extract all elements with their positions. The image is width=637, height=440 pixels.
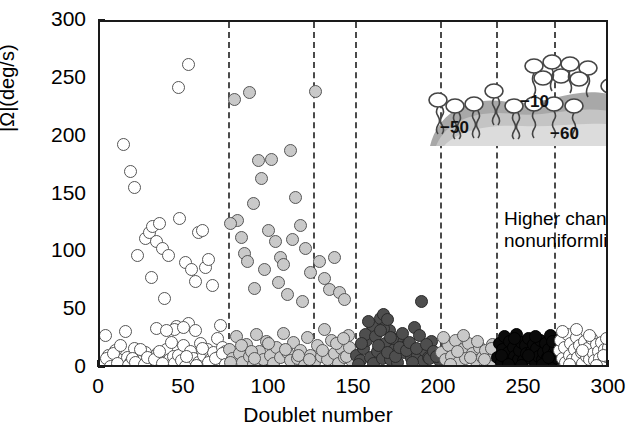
data-point [529, 330, 542, 343]
dashed-separator [313, 22, 315, 365]
data-point [124, 165, 137, 178]
data-point [284, 144, 297, 157]
inset-schematic: −50−10−10−70−60−10 [422, 46, 606, 152]
data-point [100, 329, 112, 342]
data-point [189, 324, 202, 337]
y-tick-label: 0 [74, 354, 86, 378]
inset-value-label: −50 [440, 118, 469, 138]
data-point [502, 358, 515, 365]
data-point [172, 81, 185, 94]
x-tick-label: 50 [171, 374, 194, 398]
data-point [214, 319, 227, 332]
data-point [304, 266, 317, 279]
data-point [303, 353, 316, 365]
data-point [328, 251, 341, 264]
y-tick-label: 250 [51, 65, 86, 89]
data-point [289, 191, 302, 204]
data-point [202, 253, 215, 266]
data-point [597, 349, 606, 362]
data-point [177, 321, 190, 334]
data-point [228, 93, 241, 106]
data-point [162, 249, 175, 262]
data-point [464, 351, 477, 364]
data-point [252, 154, 265, 167]
data-point [279, 343, 292, 356]
y-tick-label: 150 [51, 181, 86, 205]
data-point [241, 255, 254, 268]
x-tick-label: 300 [590, 374, 625, 398]
plot-area: Higher change nonuniformlity [98, 20, 608, 367]
data-point [196, 224, 209, 237]
data-point [471, 335, 484, 348]
x-tick-label: 200 [420, 374, 455, 398]
data-point [165, 336, 178, 349]
data-point [478, 353, 491, 365]
data-point [444, 358, 457, 365]
annotation-text: Higher change nonuniformlity [504, 208, 606, 252]
annotation-line-2: nonuniformlity [504, 230, 606, 252]
data-point [522, 349, 535, 362]
data-point [269, 235, 282, 248]
data-point [145, 271, 158, 284]
data-point [286, 233, 299, 246]
inset-value-label: −60 [550, 124, 579, 144]
y-tick-label: 100 [51, 238, 86, 262]
x-tick-label: 250 [505, 374, 540, 398]
data-point [563, 358, 576, 365]
dashed-separator [228, 22, 230, 365]
dashed-separator [355, 22, 357, 365]
data-point [235, 231, 248, 244]
plot-clip: Higher change nonuniformlity [100, 22, 606, 365]
data-point [206, 279, 219, 292]
data-point [570, 323, 583, 336]
data-point [265, 153, 278, 166]
data-point [153, 217, 166, 230]
data-point [296, 295, 309, 308]
x-axis-title: Doublet number [243, 403, 392, 427]
data-point [309, 85, 322, 98]
data-point [299, 242, 312, 255]
x-tick-label: 0 [92, 374, 104, 398]
data-point [281, 288, 294, 301]
y-tick-label: 50 [63, 296, 86, 320]
data-point [337, 332, 350, 345]
data-point [255, 172, 268, 185]
figure-container: |Ω|(deg/s) 05010015020025030005010015020… [0, 0, 637, 440]
data-point [352, 358, 365, 365]
data-point [583, 329, 596, 342]
x-tick-label: 150 [335, 374, 370, 398]
data-point [451, 345, 464, 358]
data-point [247, 197, 260, 210]
data-point [262, 337, 275, 350]
data-point [248, 282, 261, 295]
inset-value-label: −10 [520, 92, 549, 112]
data-point [224, 217, 237, 230]
y-tick-label: 300 [51, 7, 86, 31]
data-point [189, 275, 202, 288]
data-point [381, 313, 394, 326]
annotation-line-1: Higher change [504, 208, 606, 230]
data-point [294, 219, 307, 232]
data-point [182, 58, 195, 71]
x-tick-label: 100 [250, 374, 285, 398]
data-point [272, 276, 285, 289]
data-point [313, 255, 326, 268]
data-point [173, 212, 186, 225]
data-point [131, 249, 144, 262]
y-tick-label: 200 [51, 123, 86, 147]
data-point [117, 138, 130, 151]
data-point [158, 292, 171, 305]
data-point [277, 258, 290, 271]
data-point [243, 86, 256, 99]
data-point [258, 263, 271, 276]
data-point [196, 342, 209, 355]
data-point [415, 295, 428, 308]
data-point [338, 293, 351, 306]
data-point [119, 325, 132, 338]
data-point [128, 181, 141, 194]
